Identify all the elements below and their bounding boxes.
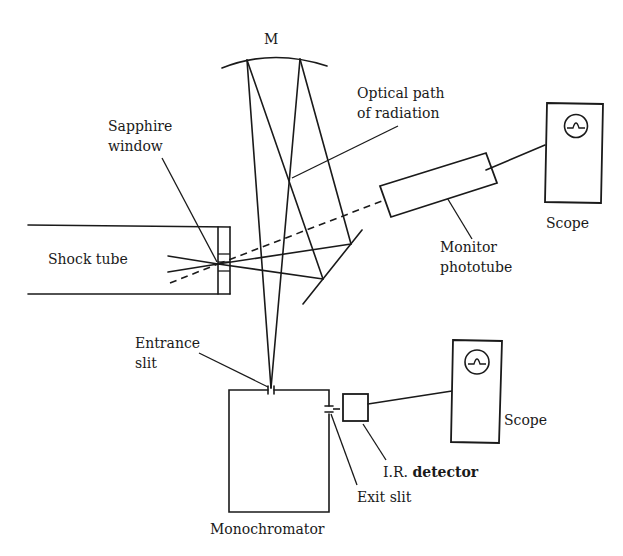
monitor-phototube-label-line1: Monitor <box>440 238 497 256</box>
monitor-phototube-label-line2: phototube <box>440 258 512 276</box>
phototube-cable <box>486 145 545 170</box>
sapphire-window-label-line1: Sapphire <box>108 117 172 135</box>
ir-detector <box>343 394 368 421</box>
monitor-phototube-leader <box>446 196 472 239</box>
scope-bottom-label: Scope <box>504 411 547 429</box>
sapphire-window-label-line2: window <box>108 137 163 155</box>
ir-detector-leader <box>363 424 386 460</box>
detector-cable <box>368 391 452 404</box>
sapphire-window-leader <box>162 158 217 262</box>
optical-path-label-line2: of radiation <box>357 104 439 122</box>
diagram-drawing <box>0 0 623 556</box>
shock-tube-label: Shock tube <box>48 250 128 268</box>
optical-beams <box>168 59 382 388</box>
scope-top-label: Scope <box>546 214 589 232</box>
scope-top <box>545 103 603 203</box>
optical-path-leader <box>292 126 398 178</box>
entrance-slit-label-line2: slit <box>135 354 157 372</box>
monochromator <box>229 386 333 512</box>
mirror-label: M <box>264 30 278 48</box>
concave-mirror <box>222 57 327 68</box>
monochromator-label: Monochromator <box>210 520 325 538</box>
diagram-canvas: M Optical path of radiation Sapphire win… <box>0 0 623 556</box>
exit-slit-label: Exit slit <box>357 488 411 506</box>
monitor-phototube <box>380 153 497 217</box>
flat-mirror <box>303 230 362 304</box>
entrance-slit-label-line1: Entrance <box>135 334 200 352</box>
ir-prefix: I.R. <box>383 464 408 480</box>
optical-path-label-line1: Optical path <box>357 84 445 102</box>
entrance-slit-leader <box>199 353 268 387</box>
ir-detector-word: detector <box>412 464 478 480</box>
ir-detector-label: I.R. detector <box>383 463 478 481</box>
scope-bottom <box>451 340 502 443</box>
exit-slit-leader <box>331 414 357 485</box>
